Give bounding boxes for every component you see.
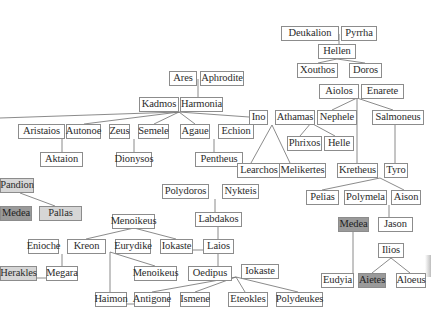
node-eurydike: Eurydike: [115, 239, 151, 254]
node-kretheus: Kretheus: [337, 163, 378, 178]
node-harmonia: Harmonia: [180, 97, 223, 112]
node-herakles: Herakles: [0, 266, 37, 281]
node-antigone: Antigone: [134, 292, 170, 307]
edge-kretheus-tyro-to-aison: [380, 178, 404, 190]
node-nephele: Nephele: [317, 110, 357, 125]
node-enarete: Enarete: [361, 84, 404, 99]
node-iokaste-mid: Iokaste: [160, 239, 193, 254]
node-polydoros: Polydoros: [162, 184, 209, 199]
node-kadmos: Kadmos: [139, 97, 179, 112]
node-echion: Echion: [218, 124, 254, 139]
node-polymela: Polymela: [344, 190, 387, 205]
node-xouthos: Xouthos: [297, 63, 338, 78]
node-doros: Doros: [349, 63, 382, 78]
edge-pandion-to-pallas: [20, 193, 55, 206]
node-medea-left: Medea: [0, 206, 32, 221]
node-pelias: Pelias: [306, 190, 339, 205]
node-medea-right: Medea: [338, 217, 369, 232]
node-ares: Ares: [169, 71, 197, 86]
node-pandion: Pandion: [0, 178, 34, 193]
edge-ilios-to-aietes: [372, 258, 391, 273]
node-megara: Megara: [46, 266, 78, 281]
edge-aiolos-enarete-to-salmoneus: [357, 98, 393, 110]
node-eudyia: Eudyia: [321, 273, 354, 288]
node-aloeus: Aloeus: [396, 273, 426, 288]
node-aristaios: Aristaios: [18, 124, 65, 139]
node-iokaste-bottom: Iokaste: [241, 264, 279, 279]
node-tyro: Tyro: [384, 163, 408, 178]
node-pentheus: Pentheus: [195, 152, 243, 167]
node-laios: Laios: [203, 239, 234, 254]
node-melikertes: Melikertes: [279, 163, 326, 178]
node-jason: Jason: [378, 217, 413, 232]
node-ismene: Ismene: [180, 292, 210, 307]
node-polydeukes: Polydeukes: [276, 292, 323, 307]
edge-kadmos-harmonia-to-agaue: [179, 112, 195, 124]
edge-kretheus-tyro-to-pelias: [322, 178, 380, 190]
node-ilios: Ilios: [378, 243, 404, 258]
node-kreon: Kreon: [67, 239, 106, 254]
node-eteokles: Eteokles: [228, 292, 268, 307]
node-semele: Semele: [138, 124, 169, 139]
edge-oedipus-iokaste-to-polydeukes: [236, 277, 298, 292]
node-phrixos: Phrixos: [287, 136, 322, 151]
family-tree-diagram: DeukalionPyrrhaHellenXouthosDorosAiolosE…: [0, 0, 431, 332]
node-athamas: Athamas: [275, 110, 315, 125]
node-agaue: Agaue: [180, 124, 210, 139]
edge-kadmos-harmonia-to-ino: [179, 112, 249, 117]
edge-ilios-to-aloeus: [391, 258, 410, 273]
node-haimon: Haimon: [95, 292, 127, 307]
right-edge-shadow: [425, 255, 431, 277]
node-ino: Ino: [249, 110, 268, 125]
edge-kreon-eurydike-to-menoikeus_bottom: [110, 252, 155, 266]
node-zeus: Zeus: [109, 124, 130, 139]
edge-ino-athamas-to-learchos: [251, 125, 272, 163]
node-pyrrha: Pyrrha: [341, 26, 377, 41]
node-autonoe: Autonoe: [66, 124, 101, 139]
node-dionysos: Dionysos: [116, 152, 152, 167]
node-aphrodite: Aphrodite: [200, 71, 244, 86]
node-aison: Aison: [391, 190, 421, 205]
node-aiolos: Aiolos: [319, 84, 359, 99]
node-labdakos: Labdakos: [195, 212, 242, 227]
node-enioche: Enioche: [28, 239, 59, 254]
node-oedipus: Oedipus: [188, 266, 232, 281]
node-nykteis: Nykteis: [222, 184, 259, 199]
node-helle: Helle: [324, 136, 354, 151]
node-learchos: Learchos: [237, 163, 281, 178]
node-menoikeus-top: Menoikeus: [112, 214, 155, 229]
edge-menoikeus_top-to-iokaste_mid: [134, 228, 176, 239]
edge-aiolos-enarete-to-nephele: [332, 98, 357, 110]
node-deukalion: Deukalion: [281, 26, 339, 41]
node-pallas: Pallas: [39, 206, 82, 221]
node-salmoneus: Salmoneus: [372, 110, 424, 125]
edge-menoikeus_top-to-kreon: [86, 228, 134, 239]
node-aietes: Aietes: [358, 273, 386, 288]
node-aktaion: Aktaion: [40, 152, 83, 167]
node-menoikeus-bottom: Menoikeus: [134, 266, 177, 281]
node-hellen: Hellen: [318, 44, 356, 59]
